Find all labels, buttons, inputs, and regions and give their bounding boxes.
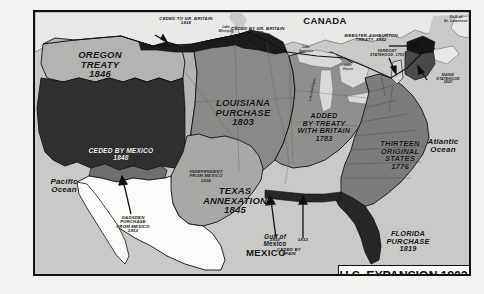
map-title-box: U.S. EXPANSION 1803-1853 <box>338 265 471 276</box>
annotation-ceded-by-spain: CEDED BY SPAIN <box>261 248 317 257</box>
region-label-thirteen-states: THIRTEEN ORIGINAL STATES 1776 <box>367 140 433 171</box>
lake-label-superior: Lake Superior <box>291 46 321 53</box>
map-title: U.S. EXPANSION 1803-1853 <box>340 269 471 277</box>
region-label-ceded-by-mexico: CEDED BY MEXICO 1848 <box>63 148 179 161</box>
country-label-canada: CANADA <box>293 16 357 26</box>
annotation-webster-ashburton: WEBSTER-ASHBURTON TREATY, 1842 <box>323 34 419 43</box>
annotation-independent-from-mexico: INDEPENDENT FROM MEXICO 1836 <box>173 170 239 183</box>
lake-label-huron: Lake Huron <box>333 64 363 71</box>
water-label-gulf-of-st-lawrence: Gulf of St. Lawrence <box>433 16 471 23</box>
water-label-pacific-ocean: Pacific Ocean <box>37 178 91 194</box>
map-figure: CANADA MEXICO Pacific Ocean Atlantic Oce… <box>0 0 484 294</box>
annotation-ceded-by-gr-britain: CEDED BY GR. BRITAIN 1818 <box>215 27 301 36</box>
leader-arrow-vermont <box>391 66 396 74</box>
annotation-spain-date-1813: 1813 <box>291 238 315 242</box>
map-frame: CANADA MEXICO Pacific Ocean Atlantic Oce… <box>33 10 471 276</box>
leader-arrow-gadsden <box>119 176 127 185</box>
leader-arrow-1813 <box>299 196 307 204</box>
region-label-added-by-treaty: ADDED BY TREATY WITH BRITAIN 1783 <box>287 112 361 142</box>
region-label-louisiana-purchase: LOUISIANA PURCHASE 1803 <box>193 98 293 127</box>
region-label-florida-purchase: FLORIDA PURCHASE 1819 <box>375 230 441 253</box>
leader-arrow-maine <box>418 66 424 74</box>
region-label-texas-annexation: TEXAS ANNEXATION 1845 <box>183 186 287 215</box>
leader-arrow-webster <box>411 43 419 49</box>
annotation-vermont-statehood: VERMONT STATEHOOD, 1791 <box>351 50 423 57</box>
annotation-gadsden-purchase: GADSDEN PURCHASE FROM MEXICO 1853 <box>97 216 169 234</box>
annotation-ceded-to-gr-britain: CEDED TO GR. BRITAIN 1818 <box>143 17 229 26</box>
leader-gadsden <box>123 180 131 214</box>
annotation-maine-statehood: MAINE STATEHOOD 1820 <box>427 74 469 85</box>
region-label-oregon-treaty: OREGON TREATY 1846 <box>55 50 145 79</box>
leader-arrow-ceded-to-gr-britain <box>161 35 167 42</box>
leader-ceded-by-gr-britain <box>249 40 257 45</box>
annotation-spain-date-1810: 1810 <box>263 238 287 242</box>
